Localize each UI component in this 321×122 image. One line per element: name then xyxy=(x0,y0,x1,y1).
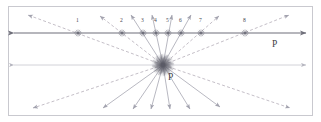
marked-point-8 xyxy=(241,29,248,36)
marked-point-6 xyxy=(177,29,184,36)
label-group: 12345678PP xyxy=(76,17,277,82)
center-label-p: P xyxy=(168,72,173,82)
point-label-7: 7 xyxy=(199,17,202,23)
marked-point-5 xyxy=(164,29,171,36)
marked-point-7 xyxy=(197,29,204,36)
point-label-8: 8 xyxy=(243,17,246,23)
marked-point-1 xyxy=(74,29,81,36)
marked-point-4 xyxy=(152,29,159,36)
point-label-4: 4 xyxy=(154,17,157,23)
marked-point-3 xyxy=(139,29,146,36)
projective-pencil-diagram: 12345678PP xyxy=(0,0,321,122)
point-label-3: 3 xyxy=(141,17,144,23)
point-label-6: 6 xyxy=(179,17,182,23)
point-label-1: 1 xyxy=(76,17,79,23)
figure-container: 12345678PP xyxy=(0,0,321,122)
lower-ray-8 xyxy=(163,65,290,108)
point-label-2: 2 xyxy=(120,17,123,23)
upper-ray-8 xyxy=(163,15,289,65)
lower-ray-1 xyxy=(33,65,163,108)
point-label-5: 5 xyxy=(166,17,169,23)
line-label-p: P xyxy=(272,39,277,49)
